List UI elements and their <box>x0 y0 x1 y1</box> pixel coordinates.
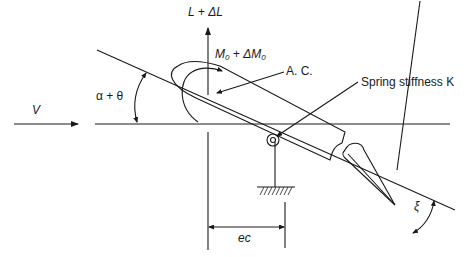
moment-arrow <box>182 68 222 122</box>
angle-attack-label: α + θ <box>96 90 123 102</box>
airfoil-upper-surface <box>178 62 345 144</box>
ac-leader <box>217 72 284 93</box>
spring-inner-circle <box>271 138 276 143</box>
diagram: L + ΔL M0 + ΔM0 A. C. Spring stiffness K… <box>0 0 468 257</box>
offset-label: ec <box>238 232 251 244</box>
lift-label: L + ΔL <box>188 6 223 18</box>
ground-hatch <box>260 187 292 195</box>
spring-label: Spring stiffness K <box>361 76 454 88</box>
diagram-canvas <box>0 0 468 257</box>
moment-label: M0 + ΔM0 <box>215 48 266 62</box>
angle-attack-arc <box>135 73 146 122</box>
flap-angle-label: ξ <box>414 200 419 212</box>
spring-outer-circle <box>267 134 279 146</box>
spring-leader <box>277 82 358 136</box>
aero-center-label: A. C. <box>286 65 313 77</box>
velocity-label: V <box>32 104 40 116</box>
